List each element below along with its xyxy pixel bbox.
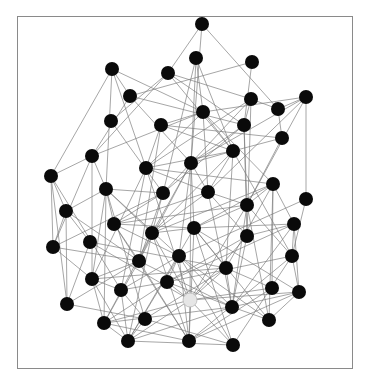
graph-node [121,334,135,348]
graph-node [292,285,306,299]
graph-edge [128,341,233,345]
graph-node-highlighted [183,293,197,307]
graph-node [240,229,254,243]
graph-node [187,221,201,235]
graph-edge [130,62,252,96]
graph-edge [146,168,273,184]
graph-node [59,204,73,218]
graph-edge [111,121,163,193]
graph-node [85,272,99,286]
graph-node [245,55,259,69]
graph-edge [168,73,251,99]
graph-node [105,62,119,76]
graph-node [160,275,174,289]
graph-node [237,118,251,132]
graph-node [226,144,240,158]
graph-node [99,182,113,196]
graph-node [60,297,74,311]
graph-node [240,198,254,212]
graph-edge [51,69,112,176]
graph-node [44,169,58,183]
graph-edge [112,69,203,112]
graph-node [97,316,111,330]
graph-node [266,177,280,191]
graph-node [262,313,276,327]
graph-node [182,334,196,348]
graph-node [299,90,313,104]
graph-edge [191,163,194,228]
graph-node [139,161,153,175]
graph-node [138,312,152,326]
graph-edge [247,138,282,205]
graph-node [271,102,285,116]
graph-node [275,131,289,145]
graph-node [285,249,299,263]
graph-node [104,114,118,128]
graph-node [145,226,159,240]
graph-node [195,17,209,31]
graph-node [83,235,97,249]
graph-node [132,254,146,268]
graph-edge [66,211,139,261]
graph-node [226,338,240,352]
graph-edge [92,73,168,156]
graph-node [46,240,60,254]
graph-node [189,51,203,65]
graph-node [287,217,301,231]
graph-node [225,300,239,314]
graph-node [85,149,99,163]
graph-node [244,92,258,106]
graph-node [156,186,170,200]
graph-node [172,249,186,263]
graph-node [299,192,313,206]
graph-node [196,105,210,119]
node-layer [44,17,313,352]
graph-edge [233,138,282,151]
network-graph [0,0,372,387]
graph-edge [202,24,278,109]
graph-node [154,118,168,132]
graph-node [161,66,175,80]
graph-node [219,261,233,275]
graph-edge [179,163,191,256]
graph-node [265,281,279,295]
graph-node [201,185,215,199]
graph-node [107,217,121,231]
graph-edge [130,96,244,125]
graph-node [123,89,137,103]
graph-node [184,156,198,170]
graph-node [114,283,128,297]
